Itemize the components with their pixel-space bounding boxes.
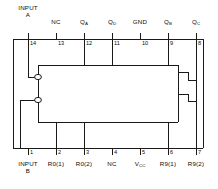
inverter-bubble-a-icon — [35, 74, 42, 79]
pin-label-8-sub: C — [197, 21, 200, 26]
pin-label-6: R9(1) — [160, 160, 176, 167]
pin-label-2: R0(1) — [48, 160, 64, 167]
pin-number-7: 7 — [198, 149, 201, 155]
inverter-bubble-b-icon — [35, 97, 42, 102]
pin-number-6: 6 — [170, 149, 173, 155]
net-pin8-step-to-inner-box — [178, 72, 196, 80]
pin-number-9: 9 — [170, 40, 173, 46]
pin-number-5: 5 — [142, 149, 145, 155]
pin-number-8: 8 — [198, 40, 201, 46]
pin-label-5-sub: CC — [139, 163, 145, 168]
pin-number-4: 4 — [114, 149, 117, 155]
pin-label-8: QC — [192, 18, 200, 27]
pin-number-2: 2 — [58, 149, 61, 155]
pin-label-5: VCC — [135, 160, 146, 169]
pin-label-9-sub: B — [169, 21, 172, 26]
pin-number-3: 3 — [86, 149, 89, 155]
pin-label-14-line1: INPUT — [18, 4, 38, 11]
pin-number-11: 11 — [114, 40, 120, 46]
pin-label-7: R9(2) — [188, 160, 204, 167]
pin-label-12-sub: A — [85, 21, 88, 26]
pin-number-10: 10 — [142, 40, 148, 46]
pin-label-11: QD — [108, 18, 116, 27]
pin-label-11-sub: D — [113, 21, 116, 26]
pin-label-13: NC — [51, 18, 60, 25]
pin-label-3: R0(2) — [76, 160, 92, 167]
net-pin7-step-to-inner-box — [178, 94, 196, 101]
pin-label-9: QB — [164, 18, 172, 27]
pin-number-13: 13 — [58, 40, 64, 46]
pin-label-4: NC — [107, 160, 116, 167]
pin-label-1-line2: B — [18, 167, 38, 174]
pin-label-1-line1: INPUT — [18, 160, 38, 167]
pin-label-10: GND — [133, 18, 147, 25]
ic-pin-diagram: 14 13 12 11 10 9 8 INPUT A NC QA QD GND … — [0, 0, 218, 189]
pin-number-14: 14 — [30, 40, 36, 46]
net-pin1-to-inverter-b — [20, 100, 35, 148]
pin-label-1: INPUT B — [18, 160, 38, 174]
pin-number-1: 1 — [30, 149, 33, 155]
pin-label-12: QA — [80, 18, 88, 27]
pin-label-14: INPUT A — [18, 4, 38, 18]
pin-number-12: 12 — [86, 40, 92, 46]
pin-label-14-line2: A — [18, 11, 38, 18]
